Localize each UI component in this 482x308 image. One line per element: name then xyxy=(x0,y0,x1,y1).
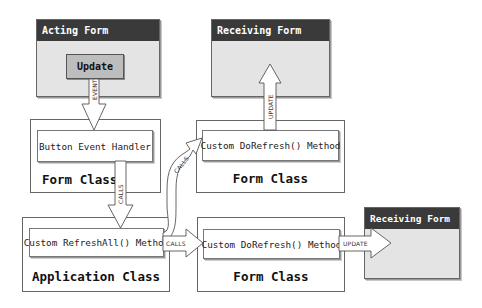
calls-right-label: CALLS xyxy=(166,240,186,247)
arrows-overlay: EVENT CALLS UPDATE CALLS CALLS UPDATE xyxy=(0,0,482,308)
update-right-label: UPDATE xyxy=(343,240,368,247)
update-up-arrow: UPDATE xyxy=(259,64,281,130)
event-arrow-label: EVENT xyxy=(91,79,98,100)
update-right-arrow: UPDATE xyxy=(339,228,391,258)
calls-curved-arrow: CALLS xyxy=(163,138,202,243)
event-arrow: EVENT xyxy=(82,79,106,130)
calls-down-label: CALLS xyxy=(117,184,124,204)
calls-down-arrow: CALLS xyxy=(108,161,133,228)
update-up-label: UPDATE xyxy=(267,94,274,119)
